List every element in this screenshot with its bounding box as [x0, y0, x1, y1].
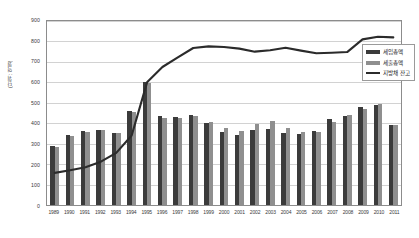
x-axis-tick: 1998: [185, 209, 200, 225]
y-axis-tick: 400: [31, 120, 40, 126]
y-axis-tick: 300: [31, 141, 40, 147]
legend-item[interactable]: 세입총액: [366, 48, 410, 56]
y-axis-tick: 800: [31, 38, 40, 44]
chart-container: (단위 : 억원) 9008007006005004003002001000 1…: [0, 0, 419, 238]
y-axis-tick: 700: [31, 58, 40, 64]
x-axis-tick: 2005: [294, 209, 309, 225]
x-axis-tick: 1992: [92, 209, 107, 225]
x-axis-tick: 2003: [263, 209, 278, 225]
y-axis-tick: 600: [31, 79, 40, 85]
legend-swatch-icon: [366, 61, 380, 65]
x-axis-tick: 1996: [154, 209, 169, 225]
x-axis-tick: 1995: [139, 209, 154, 225]
y-axis-tick: 100: [31, 182, 40, 188]
line-series-overlay: [47, 21, 401, 205]
x-axis-tick: 2009: [356, 209, 371, 225]
legend-label: 지방채 잔고: [383, 69, 410, 77]
x-axis-tick: 2000: [216, 209, 231, 225]
x-axis-tick: 2007: [325, 209, 340, 225]
x-axis-tick: 2006: [309, 209, 324, 225]
legend-swatch-icon: [366, 72, 380, 75]
y-axis-tick: 0: [37, 203, 40, 209]
x-axis-tick: 1994: [123, 209, 138, 225]
legend-item[interactable]: 지방채 잔고: [366, 69, 410, 77]
x-axis-tick: 2011: [387, 209, 402, 225]
y-axis-tick: 900: [31, 17, 40, 23]
legend-label: 세입총액: [383, 48, 403, 56]
x-axis-tick: 2002: [247, 209, 262, 225]
x-axis-tick: 2008: [340, 209, 355, 225]
x-axis-tick: 1990: [61, 209, 76, 225]
x-axis-tick: 2001: [232, 209, 247, 225]
legend-swatch-icon: [366, 50, 380, 54]
legend-item[interactable]: 세출총액: [366, 59, 410, 67]
legend-label: 세출총액: [383, 59, 403, 67]
x-axis-tick-labels: 1989199019911992199319941995199619971998…: [46, 209, 402, 225]
y-axis-tick: 200: [31, 162, 40, 168]
x-axis-tick: 1993: [108, 209, 123, 225]
y-axis-tick: 500: [31, 100, 40, 106]
plot-area: [46, 20, 402, 206]
chart-legend: 세입총액세출총액지방채 잔고: [362, 44, 415, 81]
x-axis-tick: 1991: [77, 209, 92, 225]
x-axis-tick: 2004: [278, 209, 293, 225]
x-axis-tick: 1999: [201, 209, 216, 225]
x-axis-tick: 1989: [46, 209, 61, 225]
x-axis-tick: 2010: [371, 209, 386, 225]
y-axis-tick-labels: 9008007006005004003002001000: [0, 20, 44, 206]
x-axis-tick: 1997: [170, 209, 185, 225]
